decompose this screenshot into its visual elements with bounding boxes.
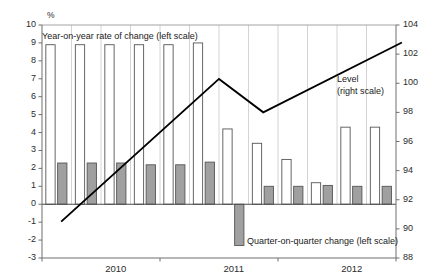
bar-year-on-year	[341, 127, 350, 204]
right-axis-tick-label: 104	[403, 19, 433, 29]
right-axis-tick-label: 90	[403, 223, 433, 233]
left-axis-unit-label: %	[47, 10, 55, 20]
x-axis-year-label: 2011	[204, 263, 264, 274]
left-axis-tick-label: 0	[8, 198, 36, 208]
level-legend-line2: (right scale)	[337, 86, 384, 97]
bar-year-on-year	[282, 159, 291, 204]
left-axis-tick-label: 3	[8, 144, 36, 154]
left-axis-tick-label: 8	[8, 55, 36, 65]
left-axis-tick-label: -2	[8, 234, 36, 244]
left-axis-tick-label: 4	[8, 127, 36, 137]
yoy-legend: Year-on-year rate of change (left scale)	[42, 31, 198, 42]
right-axis-tick-label: 94	[403, 165, 433, 175]
bar-year-on-year	[75, 45, 84, 205]
left-axis-tick-label: 9	[8, 37, 36, 47]
right-axis-tick-label: 98	[403, 106, 433, 116]
left-axis-tick-label: 7	[8, 73, 36, 83]
bar-quarter-on-quarter	[58, 163, 67, 204]
bar-year-on-year	[370, 127, 379, 204]
bar-year-on-year	[223, 129, 232, 204]
left-axis-tick-label: 1	[8, 180, 36, 190]
bar-quarter-on-quarter	[146, 165, 155, 204]
left-axis-tick-label: 6	[8, 91, 36, 101]
right-axis-tick-label: 88	[403, 252, 433, 262]
right-axis-tick-label: 102	[403, 48, 433, 58]
qoq-legend: Quarter-on-quarter change (left scale)	[247, 236, 398, 247]
left-axis-tick-label: -1	[8, 216, 36, 226]
bar-quarter-on-quarter	[353, 186, 362, 204]
level-legend-line1: Level	[337, 74, 359, 85]
left-axis-tick-label: -3	[8, 252, 36, 262]
bar-year-on-year	[311, 183, 320, 205]
right-axis-tick-label: 96	[403, 136, 433, 146]
right-axis-tick-label: 100	[403, 77, 433, 87]
x-axis-year-label: 2010	[86, 263, 146, 274]
left-axis-tick-label: 10	[8, 19, 36, 29]
bar-quarter-on-quarter	[176, 165, 185, 204]
bar-quarter-on-quarter	[323, 185, 332, 204]
bar-quarter-on-quarter	[205, 162, 214, 204]
right-axis-tick-label: 92	[403, 194, 433, 204]
bar-year-on-year	[252, 143, 261, 204]
bar-quarter-on-quarter	[382, 186, 391, 204]
bar-quarter-on-quarter	[235, 204, 244, 245]
bar-year-on-year	[46, 45, 55, 205]
bar-year-on-year	[193, 43, 202, 204]
bar-quarter-on-quarter	[264, 186, 273, 204]
x-axis-year-label: 2012	[322, 263, 382, 274]
bar-year-on-year	[134, 45, 143, 205]
left-axis-tick-label: 5	[8, 109, 36, 119]
left-axis-tick-label: 2	[8, 162, 36, 172]
bar-quarter-on-quarter	[294, 186, 303, 204]
